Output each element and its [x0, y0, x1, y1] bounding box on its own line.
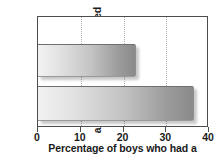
- y-axis-label: After cooperative activities were introd…: [0, 0, 32, 140]
- bar: [38, 44, 136, 77]
- x-tick-label: 40: [188, 131, 220, 143]
- x-tick-label: 0: [17, 131, 57, 143]
- x-tick-label: 10: [60, 131, 100, 143]
- bar: [38, 86, 194, 121]
- bars-layer: [38, 17, 207, 126]
- x-axis-label: Percentage of boys who had a: [37, 142, 208, 154]
- x-tick-label: 30: [145, 131, 185, 143]
- plot-area: [37, 16, 208, 127]
- bar-chart-figure: After cooperative activities were introd…: [0, 0, 220, 157]
- x-tick-label: 20: [103, 131, 143, 143]
